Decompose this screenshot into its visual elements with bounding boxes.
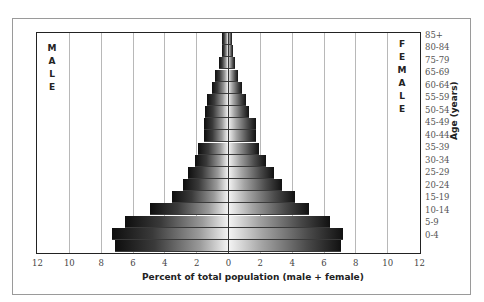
female-bar [228,167,274,179]
y-tick-label: 15-19 [425,192,455,202]
female-bar [228,240,341,252]
y-tick-label: 80-84 [425,42,455,52]
male-bar [172,191,228,203]
male-bar [219,57,228,69]
female-bar [228,70,238,82]
x-tick-label: 12 [408,258,432,268]
male-bar [204,118,228,130]
x-tick-label: 6 [312,258,336,268]
male-bar [112,228,228,240]
female-bar [228,130,256,142]
x-tick-label: 2 [248,258,272,268]
y-tick-label: 65-69 [425,67,455,77]
female-bar [228,228,343,240]
female-bar [228,118,256,130]
y-tick-label: 75-79 [425,55,455,65]
x-tick-label: 10 [376,258,400,268]
x-tick-label: 4 [153,258,177,268]
y-tick-label: 20-24 [425,180,455,190]
x-tick-label: 0 [217,258,241,268]
zero-axis-line [228,33,229,253]
y-tick-label: 0-4 [425,230,455,240]
male-bar [125,216,228,228]
male-bar [212,82,228,94]
x-tick-label: 6 [121,258,145,268]
y-tick-label: 10-14 [425,205,455,215]
y-tick-label: 85+ [425,30,455,40]
x-tick-label: 8 [89,258,113,268]
plot-area [36,32,421,254]
x-tick-label: 4 [280,258,304,268]
male-bar [183,179,228,191]
y-tick-label: 30-34 [425,155,455,165]
female-bar [228,57,235,69]
x-tick-label: 10 [57,258,81,268]
female-bar [228,82,242,94]
male-bar [150,203,228,215]
female-side-label: FEMALE [396,38,408,116]
y-tick-label: 35-39 [425,142,455,152]
male-bar [204,130,228,142]
female-bar [228,155,266,167]
male-bar [188,167,228,179]
male-side-label: MALE [46,42,58,94]
female-bar [228,179,282,191]
female-bar [228,94,246,106]
x-axis-label: Percent of total population (male + fema… [142,272,364,282]
female-bar [228,216,330,228]
male-bar [115,240,228,252]
x-tick-label: 8 [344,258,368,268]
male-bar [215,70,228,82]
x-tick-label: 12 [26,258,50,268]
male-bar [195,155,228,167]
female-bar [228,143,259,155]
y-tick-label: 25-29 [425,167,455,177]
male-bar [198,143,228,155]
female-bar [228,203,309,215]
x-tick-label: 2 [185,258,209,268]
female-bar [228,191,295,203]
male-bar [205,106,228,118]
male-bar [207,94,228,106]
y-axis-label: Age (years) [449,81,459,140]
female-bar [228,106,249,118]
y-tick-label: 5-9 [425,217,455,227]
